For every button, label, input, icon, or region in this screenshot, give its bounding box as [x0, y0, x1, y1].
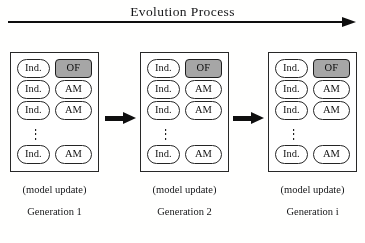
individual-pill[interactable]: Ind. — [17, 80, 50, 99]
generation-box[interactable]: Ind.OFInd.AMInd.AM⋮Ind.AM — [140, 52, 229, 172]
individual-pill[interactable]: Ind. — [147, 80, 180, 99]
approximation-model-pill[interactable]: AM — [313, 145, 350, 164]
individual-pill[interactable]: Ind. — [275, 59, 308, 78]
generation-box[interactable]: Ind.OFInd.AMInd.AM⋮Ind.AM — [10, 52, 99, 172]
individual-pill[interactable]: Ind. — [17, 145, 50, 164]
objective-function-pill[interactable]: OF — [55, 59, 92, 78]
step-right-arrow-icon — [233, 112, 264, 125]
individual-row: Ind.OF — [17, 58, 92, 79]
individual-pill[interactable]: Ind. — [275, 145, 308, 164]
vertical-ellipsis-row: ⋮ — [17, 125, 92, 144]
vertical-ellipsis-row: ⋮ — [275, 125, 350, 144]
approximation-model-pill[interactable]: AM — [55, 101, 92, 120]
generation-label: Generation i — [268, 206, 357, 217]
model-update-caption: (model update) — [268, 184, 357, 195]
evolution-process-arrow — [8, 17, 356, 29]
evolution-process-figure: Evolution Process Ind.OFInd.AMInd.AM⋮Ind… — [0, 0, 365, 243]
approximation-model-pill[interactable]: AM — [185, 101, 222, 120]
individual-pill[interactable]: Ind. — [17, 59, 50, 78]
generation-column: Ind.OFInd.AMInd.AM⋮Ind.AM(model update)G… — [268, 52, 357, 217]
individual-pill[interactable]: Ind. — [275, 101, 308, 120]
individual-row: Ind.AM — [17, 144, 92, 165]
individual-row: Ind.AM — [275, 144, 350, 165]
individual-pill[interactable]: Ind. — [147, 145, 180, 164]
model-update-caption: (model update) — [10, 184, 99, 195]
generation-box[interactable]: Ind.OFInd.AMInd.AM⋮Ind.AM — [268, 52, 357, 172]
generation-column: Ind.OFInd.AMInd.AM⋮Ind.AM(model update)G… — [10, 52, 99, 217]
vertical-ellipsis-icon: ⋮ — [160, 129, 171, 140]
approximation-model-pill[interactable]: AM — [313, 101, 350, 120]
right-arrow-icon — [342, 17, 356, 27]
individual-row: Ind.AM — [147, 79, 222, 100]
approximation-model-pill[interactable]: AM — [185, 145, 222, 164]
generation-label: Generation 2 — [140, 206, 229, 217]
individual-pill[interactable]: Ind. — [147, 101, 180, 120]
individual-row: Ind.OF — [275, 58, 350, 79]
approximation-model-pill[interactable]: AM — [313, 80, 350, 99]
arrow-shaft — [105, 116, 124, 121]
arrow-shaft — [233, 116, 252, 121]
objective-function-pill[interactable]: OF — [185, 59, 222, 78]
generation-label: Generation 1 — [10, 206, 99, 217]
individual-row: Ind.AM — [17, 100, 92, 121]
model-update-caption: (model update) — [140, 184, 229, 195]
arrow-shaft — [8, 21, 342, 23]
individual-row: Ind.AM — [275, 79, 350, 100]
arrow-head — [251, 112, 264, 124]
individual-row: Ind.OF — [147, 58, 222, 79]
individual-row: Ind.AM — [275, 100, 350, 121]
vertical-ellipsis-icon: ⋮ — [30, 129, 41, 140]
vertical-ellipsis-row: ⋮ — [147, 125, 222, 144]
step-right-arrow-icon — [105, 112, 136, 125]
individual-row: Ind.AM — [147, 100, 222, 121]
vertical-ellipsis-icon: ⋮ — [288, 129, 299, 140]
individual-pill[interactable]: Ind. — [275, 80, 308, 99]
approximation-model-pill[interactable]: AM — [55, 80, 92, 99]
individual-row: Ind.AM — [17, 79, 92, 100]
approximation-model-pill[interactable]: AM — [185, 80, 222, 99]
generation-column: Ind.OFInd.AMInd.AM⋮Ind.AM(model update)G… — [140, 52, 229, 217]
individual-row: Ind.AM — [147, 144, 222, 165]
arrow-head — [123, 112, 136, 124]
approximation-model-pill[interactable]: AM — [55, 145, 92, 164]
objective-function-pill[interactable]: OF — [313, 59, 350, 78]
individual-pill[interactable]: Ind. — [147, 59, 180, 78]
individual-pill[interactable]: Ind. — [17, 101, 50, 120]
